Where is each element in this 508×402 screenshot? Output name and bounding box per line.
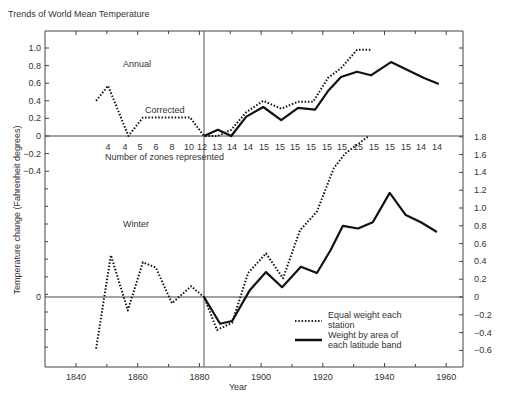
left-y-tick-label: −0.4 [23, 166, 41, 176]
legend-solid-label-1: Weight by area of [328, 330, 399, 340]
data-series [96, 50, 439, 349]
right-y-tick-label: 1.0 [474, 203, 487, 213]
zone-count: 15 [290, 142, 300, 152]
x-axis-title: Year [229, 382, 247, 392]
left-y-tick-label: 0.6 [28, 78, 41, 88]
left-y-tick-label: 1.0 [28, 43, 41, 53]
right-y-tick-label: 0.8 [474, 221, 487, 231]
zone-count: 8 [169, 142, 174, 152]
zones-count-row: 445681012131414151515151515151515151414 [105, 142, 442, 152]
temperature-trends-chart: Trends of World Mean Temperature 1840186… [0, 0, 508, 402]
left-y-tick-label: −0.2 [23, 149, 41, 159]
zone-count: 4 [122, 142, 127, 152]
right-y-tick-label: 0.4 [474, 256, 487, 266]
right-y-tick-label: −0.2 [474, 310, 492, 320]
x-tick-label: 1880 [189, 372, 209, 382]
zone-count: 13 [212, 142, 222, 152]
legend-solid-label-2: each latitude band [328, 340, 402, 350]
zone-count: 15 [401, 142, 411, 152]
zone-count: 5 [137, 142, 142, 152]
legend-dotted-label-1: Equal weight each [328, 310, 402, 320]
zone-count: 15 [337, 142, 347, 152]
zone-count: 14 [243, 142, 253, 152]
winter-label: Winter [123, 219, 149, 229]
right-y-tick-label: 1.8 [474, 132, 487, 142]
chart-title: Trends of World Mean Temperature [8, 9, 149, 19]
zone-count: 14 [432, 142, 442, 152]
corrected-label: Corrected [145, 105, 185, 115]
right-y-tick-label: 0.6 [474, 239, 487, 249]
zone-count: 4 [105, 142, 110, 152]
zone-count: 14 [416, 142, 426, 152]
zone-count: 15 [322, 142, 332, 152]
left-y-tick-label: 0.8 [28, 61, 41, 71]
x-tick-label: 1940 [374, 372, 394, 382]
left-y-tick-label: 0 [36, 131, 41, 141]
right-y-tick-label: −0.6 [474, 345, 492, 355]
annual-solid-series [204, 62, 439, 136]
x-tick-label: 1900 [251, 372, 271, 382]
right-y-tick-label: 1.2 [474, 185, 487, 195]
right-y-tick-label: 0.2 [474, 274, 487, 284]
zone-count: 15 [385, 142, 395, 152]
axis-labels: 18401860188019001920194019601.00.80.60.4… [23, 43, 492, 382]
y-axis-title: Temperature change (Fahrenheit degrees) [12, 125, 22, 294]
x-tick-label: 1840 [66, 372, 86, 382]
left-y-tick-label: 0.2 [28, 113, 41, 123]
zone-count: 6 [153, 142, 158, 152]
left-y-tick-label: 0.4 [28, 96, 41, 106]
legend: Equal weight each station Weight by area… [295, 310, 402, 350]
right-y-tick-label: 1.4 [474, 167, 487, 177]
zone-count: 15 [369, 142, 379, 152]
x-tick-label: 1860 [128, 372, 148, 382]
legend-dotted-label-2: station [328, 320, 355, 330]
zone-count: 12 [197, 142, 207, 152]
zone-count: 14 [227, 142, 237, 152]
x-tick-label: 1960 [436, 372, 456, 382]
right-y-tick-label: −0.4 [474, 328, 492, 338]
left-winter-zero-label: 0 [36, 292, 41, 302]
zones-row-label: Number of zones represented [105, 152, 224, 162]
right-y-tick-label: 0 [474, 292, 479, 302]
zone-count: 15 [259, 142, 269, 152]
x-tick-label: 1920 [313, 372, 333, 382]
zone-count: 10 [184, 142, 194, 152]
zone-count: 15 [306, 142, 316, 152]
right-y-tick-label: 1.6 [474, 150, 487, 160]
annual-label: Annual [123, 59, 151, 69]
zone-count: 15 [275, 142, 285, 152]
